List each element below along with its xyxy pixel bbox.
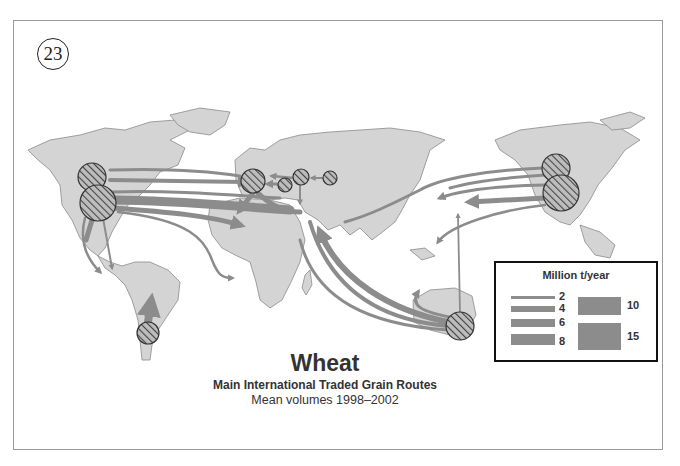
legend-title: Million t/year: [496, 269, 656, 281]
exporter-argentina: [137, 322, 159, 344]
map-period: Mean volumes 1998–2002: [200, 393, 450, 408]
legend-bar-10: [578, 297, 621, 315]
legend-bar-6: [511, 319, 555, 327]
exporter-australia: [446, 312, 474, 340]
legend-label-6: 6: [559, 316, 565, 328]
title-block: Wheat Main International Traded Grain Ro…: [200, 350, 450, 408]
legend-label-10: 10: [627, 299, 639, 311]
legend-bar-4: [511, 306, 555, 312]
exporter-ukraine: [278, 178, 292, 192]
legend: Million t/year 2 4 6 8 10 15: [494, 261, 658, 362]
legend-label-2: 2: [559, 290, 565, 302]
map-title: Wheat: [200, 350, 450, 376]
exporter-usa-west: [80, 185, 116, 221]
exporter-kazakhstan: [323, 171, 337, 185]
legend-bar-15: [578, 323, 621, 350]
exporter-usa-east: [543, 175, 579, 211]
legend-bar-8: [511, 334, 555, 345]
exporter-russia: [293, 169, 309, 185]
legend-label-15: 15: [627, 330, 639, 342]
legend-label-8: 8: [559, 335, 565, 347]
legend-bar-2: [511, 296, 555, 299]
map-subtitle: Main International Traded Grain Routes: [200, 378, 450, 393]
legend-label-4: 4: [559, 302, 565, 314]
exporter-eu: [241, 169, 265, 193]
